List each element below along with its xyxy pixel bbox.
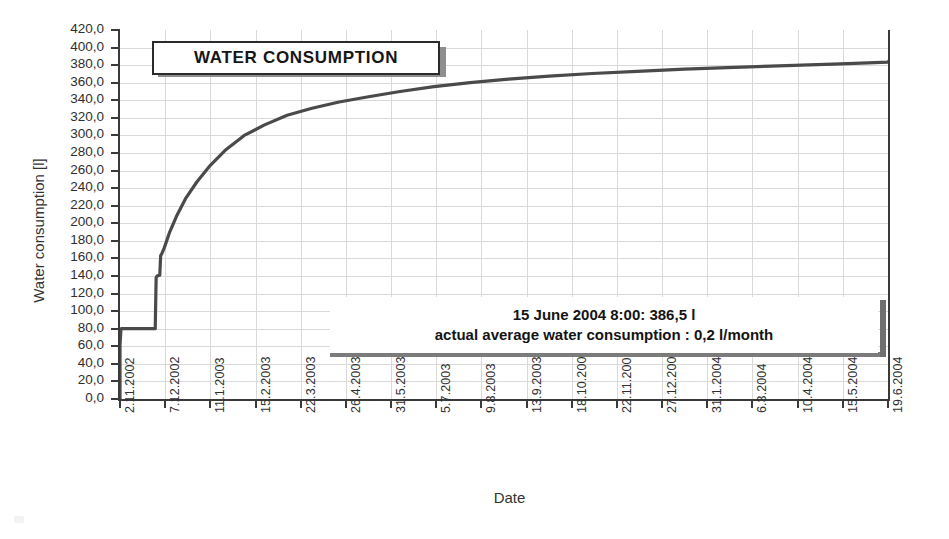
- annotation-line-2: actual average water consumption : 0,2 l…: [435, 325, 773, 345]
- y-axis-tick: [111, 82, 120, 84]
- y-axis-tick-label: 60,0: [0, 337, 104, 352]
- y-axis-tick: [111, 47, 120, 49]
- y-axis-tick: [111, 275, 120, 277]
- y-axis-tick-label: 180,0: [0, 232, 104, 247]
- x-axis-tick: [751, 399, 753, 408]
- y-axis-tick-label: 100,0: [0, 302, 104, 317]
- x-axis-tick: [480, 399, 482, 408]
- x-axis-tick: [842, 399, 844, 408]
- x-axis-title-text: Date: [494, 489, 526, 506]
- x-axis-tick: [526, 399, 528, 408]
- x-axis-tick: [164, 399, 166, 408]
- scan-artifact: [14, 516, 24, 523]
- chart-title-text: WATER CONSUMPTION: [194, 48, 398, 68]
- x-axis-tick: [616, 399, 618, 408]
- y-axis-tick-label: 380,0: [0, 56, 104, 71]
- y-axis-tick: [111, 293, 120, 295]
- y-axis-tick: [111, 134, 120, 136]
- y-axis-tick: [111, 152, 120, 154]
- y-axis-tick-label: 0,0: [0, 390, 104, 405]
- x-axis-tick: [119, 399, 121, 408]
- annotation-callout: 15 June 2004 8:00: 386,5 l actual averag…: [330, 297, 878, 353]
- y-axis-tick-label: 160,0: [0, 249, 104, 264]
- y-axis-tick-label: 200,0: [0, 214, 104, 229]
- y-axis-tick-label: 360,0: [0, 74, 104, 89]
- y-axis-tick-label: 320,0: [0, 109, 104, 124]
- x-axis-tick: [435, 399, 437, 408]
- x-axis-tick: [255, 399, 257, 408]
- y-axis-tick: [111, 257, 120, 259]
- x-axis-tick: [571, 399, 573, 408]
- y-axis-tick-label: 220,0: [0, 197, 104, 212]
- x-axis-tick: [661, 399, 663, 408]
- y-axis-tick: [111, 380, 120, 382]
- water-consumption-chart-figure: Water consumption [l] Date 420,0400,0380…: [0, 0, 949, 539]
- y-axis-tick-label: 400,0: [0, 39, 104, 54]
- y-axis-tick: [111, 205, 120, 207]
- y-axis-tick: [111, 363, 120, 365]
- y-axis-tick-label: 80,0: [0, 320, 104, 335]
- y-axis-tick: [111, 345, 120, 347]
- y-axis-tick-label: 340,0: [0, 91, 104, 106]
- x-axis-tick: [345, 399, 347, 408]
- y-axis-tick: [111, 29, 120, 31]
- y-axis-tick-label: 140,0: [0, 267, 104, 282]
- y-axis-tick: [111, 187, 120, 189]
- y-axis-tick: [111, 310, 120, 312]
- x-axis-tick-label: 19.6.2004: [891, 356, 905, 413]
- y-axis-tick: [111, 99, 120, 101]
- y-axis-tick-label: 240,0: [0, 179, 104, 194]
- x-axis-tick: [300, 399, 302, 408]
- x-axis-tick: [390, 399, 392, 408]
- y-axis-tick: [111, 222, 120, 224]
- annotation-plaque-shadow-right: [880, 300, 886, 357]
- chart-title-plaque: WATER CONSUMPTION: [152, 41, 440, 75]
- y-axis-tick-label: 260,0: [0, 162, 104, 177]
- y-axis-tick-label: 420,0: [0, 21, 104, 36]
- x-axis-tick: [209, 399, 211, 408]
- y-axis-tick-label: 300,0: [0, 126, 104, 141]
- y-axis-tick: [111, 64, 120, 66]
- y-axis-tick-label: 40,0: [0, 355, 104, 370]
- y-axis-tick: [111, 328, 120, 330]
- y-axis-tick-label: 280,0: [0, 144, 104, 159]
- y-axis-tick-label: 120,0: [0, 285, 104, 300]
- y-axis-tick: [111, 117, 120, 119]
- x-axis-tick: [797, 399, 799, 408]
- x-axis-title: Date: [0, 489, 949, 506]
- x-axis-tick: [887, 399, 889, 408]
- annotation-line-1: 15 June 2004 8:00: 386,5 l: [513, 305, 696, 325]
- y-axis-tick: [111, 240, 120, 242]
- x-axis-tick: [706, 399, 708, 408]
- y-axis-tick: [111, 170, 120, 172]
- y-axis-tick-label: 20,0: [0, 372, 104, 387]
